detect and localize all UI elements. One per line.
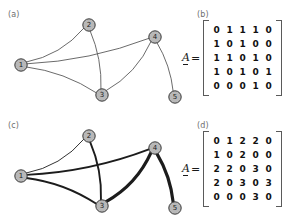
matrix-unweighted-cell: 0	[236, 51, 249, 65]
matrix-weighted-cell: 0	[236, 190, 249, 204]
bracket-right-b	[276, 20, 282, 96]
graph-weighted-node: 2	[83, 130, 95, 142]
matrix-equals-d: =	[191, 163, 200, 176]
graph-unweighted-edge	[90, 31, 101, 90]
matrix-unweighted-cell: 1	[210, 65, 223, 79]
panel-label-d: (d)	[197, 122, 209, 130]
matrix-weighted-row: 01220	[210, 134, 275, 148]
graph-unweighted-edge	[26, 38, 149, 64]
matrix-weighted-bracketed: 0122010200220302030300030	[203, 131, 282, 207]
matrix-unweighted-cell: 1	[262, 65, 275, 79]
matrix-unweighted-bracketed: 0111010100110101010100010	[203, 20, 282, 96]
matrix-weighted-row: 10200	[210, 148, 275, 162]
matrix-weighted-cell: 0	[210, 190, 223, 204]
matrix-weighted-cell: 2	[210, 176, 223, 190]
graph-weighted-canvas: 12345	[0, 111, 192, 221]
graph-unweighted-node-label: 4	[153, 33, 158, 41]
graph-unweighted-edge	[106, 41, 151, 91]
matrix-unweighted-cell: 0	[262, 37, 275, 51]
matrix-weighted-cell: 1	[210, 148, 223, 162]
matrix-unweighted-panel: A = 0111010100110101010100010	[182, 20, 282, 96]
graph-weighted-node-label: 5	[173, 204, 177, 212]
graph-weighted-edge	[26, 178, 97, 204]
bracket-left-b	[203, 20, 209, 96]
matrix-weighted-cell: 3	[236, 176, 249, 190]
matrix-weighted-cell: 3	[249, 162, 262, 176]
matrix-weighted-cell: 0	[249, 148, 262, 162]
graph-unweighted-edge	[26, 67, 97, 93]
graph-weighted-panel: 12345	[0, 111, 192, 221]
graph-weighted-edge	[106, 152, 151, 202]
matrix-unweighted-cell: 0	[249, 37, 262, 51]
matrix-weighted-cell: 2	[236, 148, 249, 162]
matrix-symbol-b-underline	[183, 64, 189, 65]
matrix-weighted-cell: 2	[223, 162, 236, 176]
matrix-unweighted-row: 10101	[210, 65, 275, 79]
matrix-symbol-d: A	[182, 162, 190, 176]
matrix-unweighted-row: 01110	[210, 23, 275, 37]
matrix-weighted-cell: 0	[210, 134, 223, 148]
figure-root: (a) (b) (c) (d) 12345 12345 A = 01110101…	[0, 0, 287, 221]
graph-unweighted-canvas: 12345	[0, 0, 192, 112]
matrix-weighted-cell: 0	[249, 176, 262, 190]
matrix-symbol-b-letter: A	[182, 51, 190, 64]
matrix-weighted-cell: 0	[223, 176, 236, 190]
matrix-unweighted-cell: 1	[249, 23, 262, 37]
matrix-unweighted-cell: 1	[249, 51, 262, 65]
matrix-weighted-cell: 3	[262, 176, 275, 190]
matrix-weighted-cell: 0	[223, 148, 236, 162]
graph-unweighted-node-layer: 12345	[15, 19, 181, 103]
matrix-unweighted-cell: 0	[223, 37, 236, 51]
graph-unweighted-node-label: 1	[19, 61, 23, 69]
graph-weighted-edge	[157, 153, 173, 202]
graph-weighted-edge	[26, 149, 149, 175]
graph-weighted-node-label: 1	[19, 172, 23, 180]
graph-weighted-node-label: 4	[153, 144, 158, 152]
matrix-weighted-cell: 0	[236, 162, 249, 176]
matrix-unweighted-cell: 1	[223, 23, 236, 37]
matrix-unweighted-table: 0111010100110101010100010	[210, 23, 275, 93]
graph-weighted-node: 1	[15, 170, 27, 182]
matrix-unweighted-cell: 0	[262, 79, 275, 93]
matrix-unweighted-cell: 0	[210, 23, 223, 37]
matrix-weighted-row: 20303	[210, 176, 275, 190]
graph-weighted-node-label: 3	[100, 202, 104, 210]
matrix-unweighted-cell: 1	[249, 79, 262, 93]
matrix-unweighted-cell: 1	[223, 51, 236, 65]
matrix-unweighted-cell: 1	[210, 37, 223, 51]
matrix-equals-b: =	[191, 52, 200, 65]
matrix-weighted-row: 00030	[210, 190, 275, 204]
matrix-weighted-cell: 2	[236, 134, 249, 148]
matrix-unweighted-cell: 0	[223, 65, 236, 79]
matrix-unweighted-cell: 0	[210, 79, 223, 93]
graph-unweighted-node: 3	[96, 89, 108, 101]
matrix-unweighted-cell: 0	[262, 23, 275, 37]
matrix-unweighted-cell: 1	[236, 65, 249, 79]
graph-weighted-node-label: 2	[87, 132, 91, 140]
matrix-symbol-d-underline	[183, 175, 189, 176]
bracket-left-d	[203, 131, 209, 207]
matrix-weighted-cell: 0	[262, 134, 275, 148]
graph-unweighted-panel: 12345	[0, 0, 192, 112]
graph-unweighted-node-label: 3	[100, 91, 104, 99]
matrix-weighted-cell: 3	[249, 190, 262, 204]
matrix-weighted-panel: A = 0122010200220302030300030	[182, 131, 282, 207]
matrix-unweighted-cell: 0	[236, 79, 249, 93]
matrix-weighted-cell: 0	[262, 148, 275, 162]
graph-weighted-edge	[26, 139, 84, 173]
panel-label-b: (b)	[197, 11, 209, 19]
matrix-weighted-cell: 0	[262, 190, 275, 204]
graph-unweighted-node: 5	[169, 91, 181, 103]
matrix-weighted-row: 22030	[210, 162, 275, 176]
graph-weighted-edge	[90, 142, 101, 201]
matrix-weighted-cell: 0	[262, 162, 275, 176]
matrix-symbol-b: A	[182, 51, 190, 65]
matrix-unweighted-cell: 1	[210, 51, 223, 65]
graph-unweighted-edge	[157, 42, 173, 91]
matrix-unweighted-cell: 0	[249, 65, 262, 79]
matrix-unweighted-row: 11010	[210, 51, 275, 65]
matrix-weighted-cell: 2	[210, 162, 223, 176]
matrix-weighted-cell: 1	[223, 134, 236, 148]
bracket-right-d	[276, 131, 282, 207]
matrix-symbol-d-letter: A	[182, 162, 190, 175]
